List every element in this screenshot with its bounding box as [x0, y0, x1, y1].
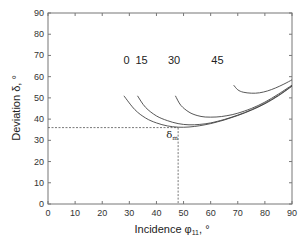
y-tick-label: 10	[34, 178, 44, 188]
curve-label-30: 30	[168, 54, 180, 66]
deviation-curves	[124, 80, 292, 127]
x-tick-label: 80	[260, 208, 270, 218]
x-tick-label: 30	[124, 208, 134, 218]
y-axis-title: Deviation δ, °	[10, 75, 22, 141]
y-tick-label: 50	[34, 93, 44, 103]
x-axis-title: Incidence φ11, °	[134, 223, 209, 236]
curve-15	[138, 86, 293, 125]
x-axis-ticks: 0102030405060708090	[45, 13, 297, 218]
y-tick-label: 0	[39, 199, 44, 209]
y-tick-label: 40	[34, 114, 44, 124]
x-tick-label: 20	[97, 208, 107, 218]
x-tick-label: 50	[179, 208, 189, 218]
curve-30	[175, 85, 292, 117]
x-tick-label: 0	[45, 208, 50, 218]
y-tick-label: 20	[34, 157, 44, 167]
curve-label-15: 15	[135, 54, 147, 66]
curve-0	[124, 86, 292, 127]
x-tick-label: 40	[151, 208, 161, 218]
y-tick-label: 80	[34, 29, 44, 39]
x-tick-label: 60	[206, 208, 216, 218]
curve-label-45: 45	[211, 54, 223, 66]
x-tick-label: 10	[70, 208, 80, 218]
y-tick-label: 90	[34, 8, 44, 18]
y-tick-label: 60	[34, 72, 44, 82]
x-tick-label: 90	[287, 208, 297, 218]
curve-labels: 0153045	[124, 54, 224, 66]
deviation-vs-incidence-chart: 0102030405060708090 0102030405060708090 …	[0, 0, 307, 248]
y-tick-label: 70	[34, 50, 44, 60]
y-tick-label: 30	[34, 135, 44, 145]
min-deviation-label: δm	[166, 129, 178, 141]
curve-label-0: 0	[124, 54, 130, 66]
min-deviation-guides	[48, 128, 178, 204]
x-tick-label: 70	[233, 208, 243, 218]
